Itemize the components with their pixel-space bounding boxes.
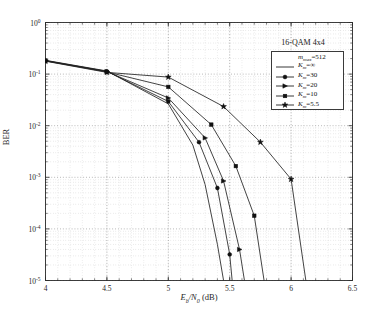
x-tick-label: 5 bbox=[166, 284, 170, 293]
legend: mmax=512 Km=∞Km=30Km=20Km=10Km=5.5 bbox=[271, 51, 344, 110]
legend-item-4: Km=5.5 bbox=[272, 100, 345, 110]
x-tick-label: 6 bbox=[289, 284, 293, 293]
legend-marker-icon bbox=[272, 91, 298, 101]
y-tick-label: 10-4 bbox=[28, 224, 40, 235]
x-tick-label: 4.5 bbox=[102, 284, 111, 293]
x-axis-label: Eb/N0 (dB) bbox=[181, 292, 218, 304]
legend-marker-icon bbox=[272, 62, 298, 72]
y-tick-label: 100 bbox=[30, 17, 40, 28]
y-axis-label: BER bbox=[1, 129, 11, 146]
series-marker-1 bbox=[197, 140, 201, 144]
y-tick-label: 10-3 bbox=[28, 172, 40, 183]
y-tick-label: 10-2 bbox=[28, 120, 40, 131]
ber-chart-svg bbox=[0, 0, 374, 323]
legend-marker-icon bbox=[272, 72, 298, 82]
legend-marker-icon bbox=[272, 100, 298, 110]
series-marker-3 bbox=[252, 214, 256, 218]
y-tick-label: 10-1 bbox=[28, 69, 40, 80]
series-marker-3 bbox=[167, 85, 171, 89]
series-marker-3 bbox=[209, 123, 213, 127]
legend-marker-icon bbox=[272, 81, 298, 91]
x-tick-label: 6.5 bbox=[348, 284, 357, 293]
series-marker-3 bbox=[234, 164, 238, 168]
x-tick-label: 4 bbox=[44, 284, 48, 293]
y-tick-label: 10-5 bbox=[28, 275, 40, 286]
chart-title: 16-QAM 4x4 bbox=[281, 38, 324, 47]
legend-label: Km=5.5 bbox=[298, 100, 319, 111]
series-marker-1 bbox=[228, 253, 232, 257]
x-tick-label: 5.5 bbox=[225, 284, 234, 293]
series-marker-1 bbox=[215, 186, 219, 190]
series-marker-1 bbox=[166, 100, 170, 104]
